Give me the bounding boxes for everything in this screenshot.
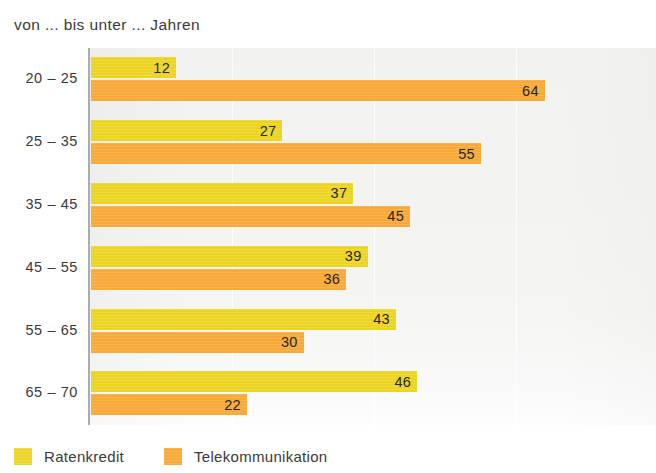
category-label: 35 – 45 <box>0 196 78 212</box>
bar-value-label: 12 <box>153 61 170 76</box>
bar-ratenkredit-5: 46 <box>91 371 417 392</box>
bar-telekommunikation-4: 30 <box>91 332 304 353</box>
bar-value-label: 46 <box>394 375 411 390</box>
chart-legend: RatenkreditTelekommunikation <box>14 443 328 469</box>
bar-value-label: 30 <box>281 335 298 350</box>
category-label: 65 – 70 <box>0 384 78 400</box>
bar-ratenkredit-4: 43 <box>91 309 396 330</box>
category-row: 25 – 352755 <box>0 111 656 174</box>
legend-swatch-icon <box>14 448 32 465</box>
bar-value-label: 22 <box>224 398 241 413</box>
bar-value-label: 39 <box>345 249 362 264</box>
bar-value-label: 64 <box>522 84 539 99</box>
bar-value-label: 43 <box>373 312 390 327</box>
bar-value-label: 45 <box>387 209 404 224</box>
bar-ratenkredit-1: 27 <box>91 120 282 141</box>
bar-telekommunikation-0: 64 <box>91 80 545 101</box>
legend-item-telekommunikation[interactable]: Telekommunikation <box>164 448 328 465</box>
category-row: 55 – 654330 <box>0 299 656 362</box>
bar-value-label: 36 <box>324 272 341 287</box>
bar-value-label: 37 <box>331 186 348 201</box>
bar-telekommunikation-3: 36 <box>91 269 346 290</box>
category-row: 35 – 453745 <box>0 174 656 237</box>
bar-ratenkredit-3: 39 <box>91 246 368 267</box>
category-label: 45 – 55 <box>0 259 78 275</box>
bar-ratenkredit-2: 37 <box>91 183 353 204</box>
category-row: 45 – 553936 <box>0 236 656 299</box>
bar-chart: von ... bis unter ... Jahren 20 – 251264… <box>0 0 656 473</box>
bar-telekommunikation-2: 45 <box>91 206 410 227</box>
category-row: 65 – 704622 <box>0 362 656 425</box>
category-label: 25 – 35 <box>0 133 78 149</box>
bar-value-label: 27 <box>260 123 277 138</box>
legend-label: Telekommunikation <box>194 448 328 465</box>
legend-swatch-icon <box>164 448 182 465</box>
chart-title: von ... bis unter ... Jahren <box>14 16 200 34</box>
legend-item-ratenkredit[interactable]: Ratenkredit <box>14 448 124 465</box>
legend-label: Ratenkredit <box>44 448 124 465</box>
bar-telekommunikation-5: 22 <box>91 394 247 415</box>
bar-telekommunikation-1: 55 <box>91 143 481 164</box>
category-row: 20 – 251264 <box>0 48 656 111</box>
bar-ratenkredit-0: 12 <box>91 57 176 78</box>
category-label: 20 – 25 <box>0 70 78 86</box>
category-label: 55 – 65 <box>0 322 78 338</box>
bar-value-label: 55 <box>458 146 475 161</box>
